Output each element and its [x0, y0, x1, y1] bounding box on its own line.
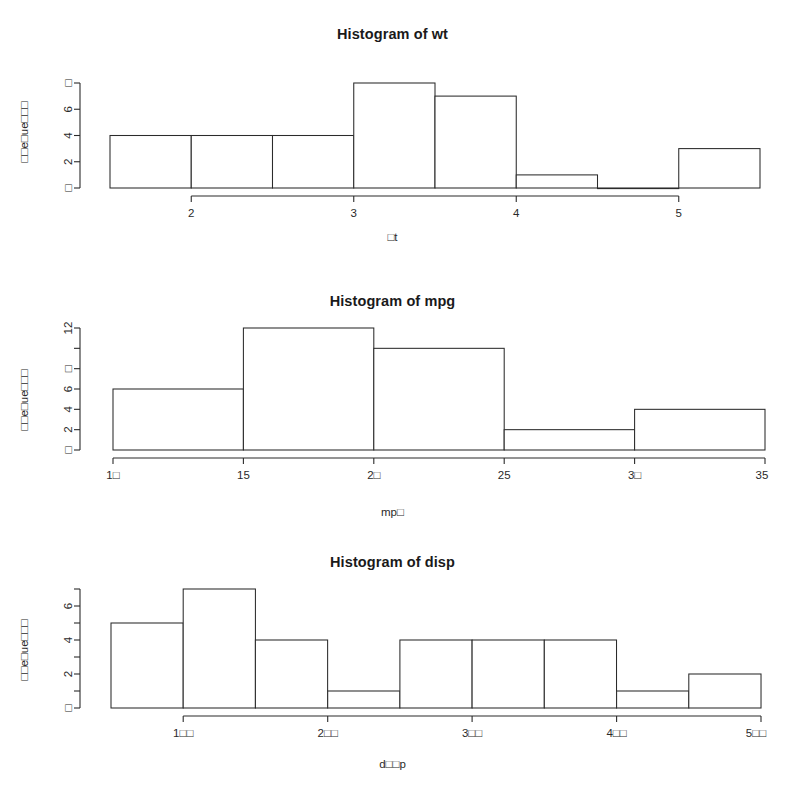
- x-tick-label: 25: [498, 469, 511, 481]
- plot-canvas-mpg: 12 □ 6 4 2 □: [0, 268, 785, 538]
- histogram-bar: [400, 640, 472, 708]
- y-tick-label: □: [62, 184, 74, 191]
- x-tick-label: 3: [351, 207, 357, 219]
- histogram-bar: [374, 348, 504, 450]
- x-tick-label: 2: [188, 207, 194, 219]
- x-tick-label: 4□□: [606, 727, 626, 739]
- histogram-bar: [516, 175, 597, 188]
- y-tick-label: □: [62, 79, 74, 86]
- plot-canvas-wt: □ 6 4 2 □: [0, 0, 785, 270]
- histogram-bar: [183, 589, 255, 708]
- y-tick-label: 2: [62, 159, 74, 165]
- x-tick-label: 2□: [367, 469, 380, 481]
- bar-series-wt: [110, 83, 760, 189]
- y-tick-label: 6: [62, 603, 74, 609]
- x-tick-label: 35: [756, 469, 769, 481]
- histogram-bar: [598, 188, 679, 189]
- x-axis-mpg: 1□ 15 2□ 25 3□ 35: [106, 458, 768, 481]
- histogram-bar: [110, 136, 191, 189]
- y-tick-label: 2: [62, 671, 74, 677]
- histogram-bar: [544, 640, 616, 708]
- x-axis-label-disp: d□□p: [0, 758, 785, 770]
- x-tick-label: 3□: [628, 469, 641, 481]
- x-axis-label-mpg: mp□: [0, 506, 785, 518]
- x-tick-label: 5□□: [746, 727, 766, 739]
- histogram-bar: [113, 389, 243, 450]
- x-tick-label: 15: [237, 469, 250, 481]
- histogram-bar: [472, 640, 544, 708]
- y-tick-label: 4: [62, 636, 74, 643]
- y-tick-label: □: [62, 704, 74, 711]
- y-tick-label: 4: [62, 406, 74, 413]
- bar-series-disp: [111, 589, 761, 708]
- histogram-bar: [679, 149, 760, 188]
- histogram-bar: [255, 640, 327, 708]
- histogram-bar: [617, 691, 689, 708]
- histogram-panel-wt: Histogram of wt □□e□ue□□□ □ 6 4 2 □: [0, 0, 785, 270]
- y-tick-label: □: [62, 365, 74, 372]
- x-axis-wt: 2 3 4 5: [188, 196, 682, 219]
- histogram-bar: [635, 409, 765, 450]
- y-tick-label: 6: [62, 386, 74, 392]
- x-tick-label: 1□□: [173, 727, 193, 739]
- plot-svg-wt: □ 6 4 2 □: [0, 0, 785, 270]
- histogram-bar: [273, 136, 354, 189]
- y-tick-label: 6: [62, 106, 74, 112]
- histogram-bar: [328, 691, 400, 708]
- bar-series-mpg: [113, 328, 765, 450]
- x-tick-label: 3□□: [462, 727, 482, 739]
- y-axis-disp: 6 4 2 □: [62, 589, 80, 711]
- y-tick-label: 4: [62, 132, 74, 139]
- histogram-bar: [354, 83, 435, 188]
- histogram-panel-disp: Histogram of disp □□e□ue□□□ 6 4 2: [0, 536, 785, 808]
- x-tick-label: 1□: [106, 469, 119, 481]
- histogram-panel-mpg: Histogram of mpg □□e□ue□□□ 12 □ 6 4: [0, 268, 785, 538]
- x-tick-label: 4: [513, 207, 520, 219]
- plot-svg-mpg: 12 □ 6 4 2 □: [0, 268, 785, 538]
- histogram-bar: [435, 96, 516, 188]
- y-tick-label: 2: [62, 426, 74, 432]
- plot-page: Histogram of wt □□e□ue□□□ □ 6 4 2 □: [0, 0, 785, 808]
- y-axis-mpg: 12 □ 6 4 2 □: [62, 322, 80, 454]
- histogram-bar: [111, 623, 183, 708]
- y-axis-wt: □ 6 4 2 □: [62, 79, 80, 191]
- histogram-bar: [504, 430, 634, 450]
- y-tick-label: □: [62, 446, 74, 453]
- x-axis-disp: 1□□ 2□□ 3□□ 4□□ 5□□: [173, 716, 766, 739]
- histogram-bar: [689, 674, 761, 708]
- x-axis-label-wt: □t: [0, 231, 785, 243]
- x-tick-label: 2□□: [318, 727, 338, 739]
- histogram-bar: [191, 136, 272, 189]
- y-tick-label: 12: [62, 322, 74, 335]
- histogram-bar: [243, 328, 373, 450]
- x-tick-label: 5: [676, 207, 682, 219]
